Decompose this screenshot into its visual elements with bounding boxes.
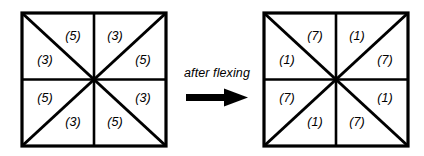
left-cell-label-top-right-upper: (3) xyxy=(107,29,122,43)
left-cell-label-bottom-left-lower: (3) xyxy=(65,115,80,129)
right-cell-label-bottom-right-lower: (7) xyxy=(349,115,364,129)
right-arrow-icon xyxy=(186,89,248,107)
right-cell-label-right-upper: (7) xyxy=(377,53,392,67)
right-square-group: (7) (1) (1) (7) (7) (1) (1) (7) xyxy=(264,13,408,146)
left-cell-label-right-upper: (5) xyxy=(135,53,150,67)
left-cell-label-bottom-right-lower: (5) xyxy=(107,115,122,129)
right-cell-label-top-left-upper: (7) xyxy=(307,29,322,43)
right-cell-label-right-lower: (1) xyxy=(377,91,392,105)
flexagon-diagram: (5) (3) (3) (5) (5) (3) (3) (5) after fl… xyxy=(0,0,424,156)
left-cell-label-right-lower: (3) xyxy=(135,91,150,105)
right-cell-label-left-upper: (1) xyxy=(279,53,294,67)
transition-label: after flexing xyxy=(184,66,250,80)
transition-group: after flexing xyxy=(184,66,250,106)
left-cell-label-left-upper: (3) xyxy=(37,53,52,67)
right-cell-label-bottom-left-lower: (1) xyxy=(307,115,322,129)
left-cell-label-left-lower: (5) xyxy=(37,91,52,105)
right-cell-label-top-right-upper: (1) xyxy=(349,29,364,43)
left-square-group: (5) (3) (3) (5) (5) (3) (3) (5) xyxy=(22,13,166,146)
right-cell-label-left-lower: (7) xyxy=(279,91,294,105)
diagram-canvas: (5) (3) (3) (5) (5) (3) (3) (5) after fl… xyxy=(0,0,424,156)
left-cell-label-top-left-upper: (5) xyxy=(65,29,80,43)
